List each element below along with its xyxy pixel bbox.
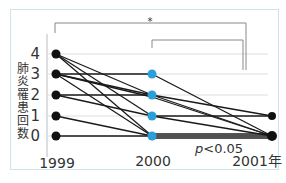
svg-text:患: 患 bbox=[17, 101, 29, 115]
points-2001 bbox=[267, 112, 277, 141]
svg-text:炎: 炎 bbox=[17, 75, 29, 89]
y-tick-labels: 4 3 2 1 0 bbox=[30, 45, 40, 145]
lines-2000-2001 bbox=[152, 74, 272, 138]
p-value-annotation: p<0.05 bbox=[194, 141, 243, 156]
svg-text:3: 3 bbox=[30, 65, 40, 83]
lines-1999-2000 bbox=[56, 54, 152, 136]
svg-text:1: 1 bbox=[30, 107, 40, 125]
points-1999 bbox=[52, 50, 61, 141]
line-chart: * bbox=[0, 0, 286, 183]
significance-bracket-inner bbox=[152, 40, 243, 70]
svg-text:回: 回 bbox=[17, 114, 29, 128]
y-axis-label: 肺 炎 罹 患 回 数 bbox=[17, 62, 29, 141]
points-2000 bbox=[148, 70, 157, 141]
significance-bracket-outer bbox=[55, 23, 246, 70]
x-tick-labels: 1999 2000 2001年 bbox=[39, 153, 282, 171]
svg-text:2: 2 bbox=[30, 86, 40, 104]
significance-star: * bbox=[148, 16, 153, 27]
svg-text:罹: 罹 bbox=[17, 88, 29, 102]
svg-text:数: 数 bbox=[17, 126, 29, 141]
svg-text:0: 0 bbox=[30, 127, 40, 145]
svg-text:2000: 2000 bbox=[135, 153, 171, 169]
svg-text:肺: 肺 bbox=[17, 62, 29, 76]
svg-text:4: 4 bbox=[30, 45, 40, 63]
svg-text:1999: 1999 bbox=[39, 155, 75, 171]
